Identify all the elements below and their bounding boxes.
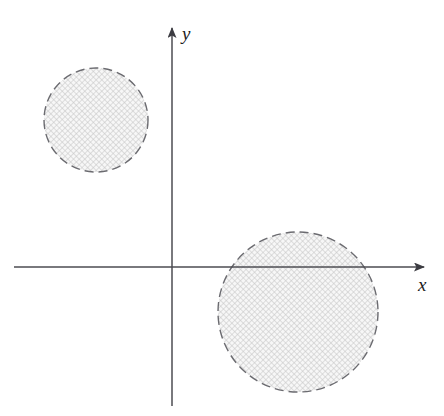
lower-right-disk-fill — [218, 232, 378, 392]
figure-canvas: y x — [0, 0, 444, 416]
x-axis-label: x — [417, 274, 427, 295]
coordinate-plane-figure: y x — [0, 0, 444, 416]
lower-right-disk — [218, 232, 378, 392]
upper-left-disk — [44, 68, 148, 172]
y-axis-label: y — [180, 23, 191, 44]
